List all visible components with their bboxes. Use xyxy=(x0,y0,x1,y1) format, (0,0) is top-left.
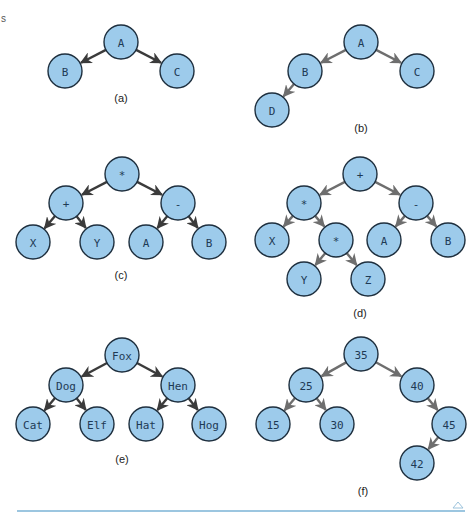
tree-node: B xyxy=(431,223,465,257)
tree-node: Fox xyxy=(105,338,139,372)
node-label: X xyxy=(269,235,276,248)
tree-node: 35 xyxy=(344,337,378,371)
tree-node: 45 xyxy=(432,407,466,441)
edge-arrow xyxy=(347,253,357,265)
up-triangle-icon xyxy=(453,502,463,508)
tree-node: - xyxy=(399,186,433,220)
edge-arrow xyxy=(137,363,162,376)
tree-caption: (e) xyxy=(115,453,128,465)
tree-node: X xyxy=(16,225,50,259)
tree-node: + xyxy=(49,186,83,220)
tree-e: FoxDogHenCatElfHatHog(e) xyxy=(16,338,226,465)
tree-node: Z xyxy=(351,262,385,296)
edge-arrow xyxy=(315,216,324,227)
node-label: 40 xyxy=(410,380,423,393)
node-label: 25 xyxy=(299,380,312,393)
tree-node: A xyxy=(367,223,401,257)
edge-arrow xyxy=(375,182,400,195)
edge-arrow xyxy=(376,362,401,376)
node-label: A xyxy=(143,237,150,250)
edge-arrow xyxy=(136,50,161,63)
edge-arrow xyxy=(45,216,55,228)
tree-node: A xyxy=(344,25,378,59)
trees-layer: ABC(a)ABCD(b)*+-XYAB(c)+*-X*ABYZ(d)FoxDo… xyxy=(16,25,466,497)
tree-node: B xyxy=(288,54,322,88)
tree-node: B xyxy=(192,225,226,259)
tree-node: Hat xyxy=(129,407,163,441)
node-label: - xyxy=(413,198,420,211)
edge-arrow xyxy=(77,216,86,228)
node-label: 30 xyxy=(330,419,343,432)
edge-arrow xyxy=(315,253,325,265)
tree-node: 15 xyxy=(256,407,290,441)
node-label: Hog xyxy=(199,419,219,432)
edge-arrow xyxy=(189,216,198,228)
tree-node: B xyxy=(48,54,82,88)
tree-node: A xyxy=(129,225,163,259)
node-label: B xyxy=(302,66,309,79)
tree-node: Dog xyxy=(49,368,83,402)
node-label: 45 xyxy=(442,419,455,432)
tree-f: 35254015304542(f) xyxy=(256,337,466,497)
node-label: Dog xyxy=(56,380,76,393)
edge-arrow xyxy=(376,50,401,63)
edge-arrow xyxy=(77,398,86,410)
edge-arrow xyxy=(81,50,106,63)
tree-node: 30 xyxy=(320,407,354,441)
node-label: Y xyxy=(94,237,101,250)
tree-node: 40 xyxy=(400,368,434,402)
tree-node: Cat xyxy=(16,407,50,441)
edge-arrow xyxy=(428,398,438,410)
node-label: B xyxy=(206,237,213,250)
tree-node: + xyxy=(343,157,377,191)
edge-arrow xyxy=(82,182,107,195)
edge-arrow xyxy=(45,398,55,410)
edge-arrow xyxy=(284,216,293,227)
node-label: - xyxy=(175,198,182,211)
node-label: 42 xyxy=(410,458,423,471)
footer xyxy=(17,502,465,511)
edge-arrow xyxy=(157,216,167,228)
tree-node: 42 xyxy=(400,446,434,480)
tree-node: - xyxy=(161,186,195,220)
edge-arrow xyxy=(285,398,295,410)
node-label: Fox xyxy=(112,350,132,363)
node-label: A xyxy=(118,37,125,50)
tree-node: Y xyxy=(80,225,114,259)
node-label: * xyxy=(301,198,308,211)
edge-arrow xyxy=(82,363,107,376)
node-label: X xyxy=(30,237,37,250)
binary-trees-figure: s ABC(a)ABCD(b)*+-XYAB(c)+*-X*ABYZ(d)Fox… xyxy=(0,0,475,520)
node-label: Y xyxy=(301,274,308,287)
edge-arrow xyxy=(284,84,294,96)
edge-arrow xyxy=(189,398,198,410)
tree-node: C xyxy=(400,54,434,88)
tree-d: +*-X*ABYZ(d) xyxy=(255,157,465,319)
tree-node: Y xyxy=(287,262,321,296)
page-mark: s xyxy=(1,13,6,24)
edge-arrow xyxy=(396,216,405,227)
edge-arrow xyxy=(317,398,326,410)
node-label: Z xyxy=(365,274,372,287)
edge-arrow xyxy=(321,50,346,63)
edge-arrow xyxy=(137,182,162,195)
node-label: * xyxy=(333,235,340,248)
tree-node: Hog xyxy=(192,407,226,441)
node-label: Cat xyxy=(23,419,43,432)
node-label: Hat xyxy=(136,419,156,432)
edge-arrow xyxy=(157,398,167,410)
tree-caption: (d) xyxy=(353,307,366,319)
tree-caption: (a) xyxy=(114,92,127,104)
tree-caption: (b) xyxy=(354,122,367,134)
tree-node: A xyxy=(104,25,138,59)
tree-node: Hen xyxy=(161,368,195,402)
edge-arrow xyxy=(428,437,438,449)
tree-node: Elf xyxy=(80,407,114,441)
node-label: + xyxy=(63,198,70,211)
tree-c: *+-XYAB(c) xyxy=(16,157,226,281)
tree-node: 25 xyxy=(289,368,323,402)
tree-b: ABCD(b) xyxy=(255,25,434,134)
tree-node: * xyxy=(319,223,353,257)
node-label: Elf xyxy=(87,419,107,432)
node-label: A xyxy=(358,37,365,50)
